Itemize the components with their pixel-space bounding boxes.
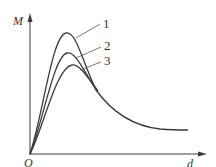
leader-line-3 [80,62,101,70]
curve-shared-tail [96,90,188,130]
curve-1 [30,33,96,154]
y-axis [28,13,33,155]
x-axis-label: d [187,157,194,167]
x-axis-arrow-icon [198,152,207,157]
y-axis-label: M [12,14,24,28]
y-axis-arrow-icon [28,13,33,22]
x-axis [30,152,207,157]
curve-label-3: 3 [104,53,111,68]
curve-3 [30,65,98,154]
m-vs-d-diagram: 1 2 3 M d O [0,0,216,167]
curve-label-1: 1 [103,16,110,31]
leader-line-1 [76,24,100,38]
origin-label: O [24,156,33,167]
curve-label-2: 2 [104,38,111,53]
